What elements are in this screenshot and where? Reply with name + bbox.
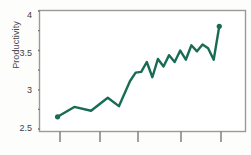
y-tick-label-2-5: 2.5 xyxy=(6,124,32,133)
chart-figure: Productivity 4 3.5 3 2.5 xyxy=(0,0,251,155)
plot-area xyxy=(38,9,247,144)
y-axis-tick-labels: 4 3.5 3 2.5 xyxy=(6,0,32,155)
y-tick-label-3-5: 3.5 xyxy=(6,49,32,58)
y-tick-label-3: 3 xyxy=(6,86,32,95)
data-point-marker-last xyxy=(217,24,222,29)
x-axis-ticks xyxy=(60,132,221,143)
line-chart-svg xyxy=(38,9,247,144)
data-point-marker-first xyxy=(55,114,60,119)
y-tick-label-4: 4 xyxy=(6,11,32,20)
